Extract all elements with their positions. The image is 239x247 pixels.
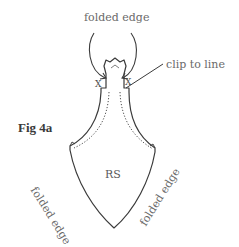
stitch-line-right <box>120 92 153 149</box>
clip-label: clip to line <box>166 59 225 70</box>
clip-pointer-line <box>126 64 163 88</box>
figure-title: Fig 4a <box>18 121 52 134</box>
pattern-outline <box>70 58 155 228</box>
x-mark-right: X <box>125 77 132 87</box>
fold-arc-left <box>89 33 105 78</box>
tip-fold <box>111 65 119 68</box>
x-mark-left: X <box>95 79 102 89</box>
top-fold-label: folded edge <box>84 12 149 23</box>
right-side-label: RS <box>105 169 121 180</box>
